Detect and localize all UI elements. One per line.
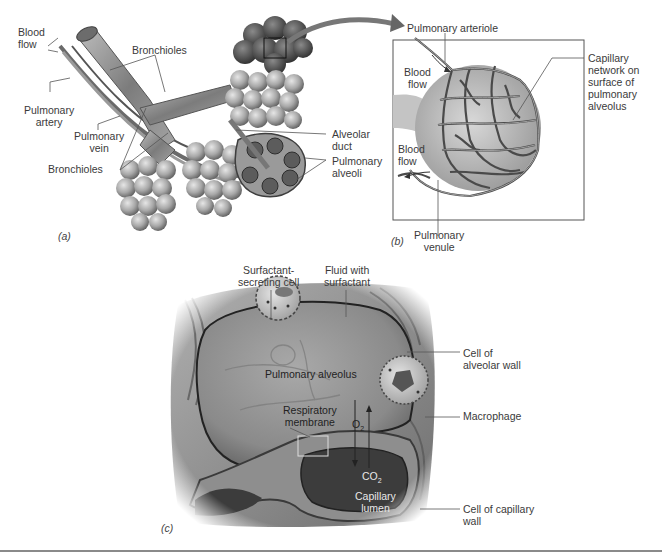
label-pulmonary-artery: Pulmonary artery	[24, 104, 74, 128]
label-pulmonary-alveoli: Pulmonary alveoli	[332, 155, 382, 179]
panel-a-art	[48, 14, 405, 231]
label-bronchioles-bottom: Bronchioles	[48, 163, 103, 175]
label-pulmonary-arteriole: Pulmonary arteriole	[407, 22, 498, 34]
label-macrophage: Macrophage	[463, 410, 521, 422]
label-blood-flow-in: Blood flow	[404, 66, 431, 90]
alveolar-sac-cluster	[225, 70, 304, 129]
o2-subscript: 2	[360, 425, 364, 432]
panel-tag-b: (b)	[391, 235, 404, 247]
label-cell-alveolar-wall: Cell of alveolar wall	[463, 347, 521, 371]
label-blood-flow-a: Blood flow	[18, 26, 45, 50]
co2-text: CO	[362, 470, 378, 482]
label-blood-flow-out: Blood flow	[398, 143, 425, 167]
label-respiratory-membrane: Respiratory membrane	[283, 404, 337, 428]
label-cell-capillary-wall: Cell of capillary wall	[463, 503, 534, 527]
label-pulmonary-alveolus: Pulmonary alveolus	[265, 368, 357, 380]
label-bronchioles-top: Bronchioles	[132, 44, 187, 56]
panel-tag-a: (a)	[58, 230, 71, 242]
bottom-divider	[0, 550, 662, 552]
panel-b-art	[393, 33, 584, 236]
label-capillary-lumen: Capillary lumen	[355, 490, 396, 514]
label-alveolar-duct: Alveolar duct	[332, 128, 370, 152]
label-capillary-network: Capillary network on surface of pulmonar…	[588, 52, 639, 112]
label-pulmonary-venule: Pulmonary venule	[414, 229, 464, 253]
alveolar-sac-cluster	[182, 140, 242, 217]
co2-subscript: 2	[378, 477, 382, 484]
o2-text: O	[352, 418, 360, 430]
alveolar-sac-cluster	[116, 156, 176, 231]
label-co2: CO2	[362, 470, 382, 487]
panel-tag-c: (c)	[161, 522, 173, 534]
label-fluid-surfactant: Fluid with surfactant	[324, 264, 370, 288]
label-o2: O2	[352, 418, 364, 435]
label-surfactant-cell: Surfactant- secreting cell	[238, 264, 299, 288]
label-pulmonary-vein: Pulmonary vein	[74, 130, 124, 154]
